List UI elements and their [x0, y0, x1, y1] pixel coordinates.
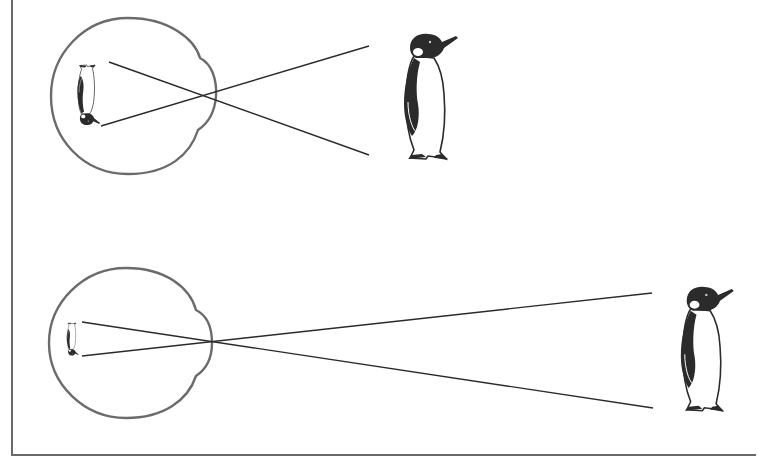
light-ray	[101, 46, 369, 126]
light-ray	[109, 62, 369, 155]
penguin-object-near	[404, 34, 458, 159]
retinal-image-penguin-inverted	[67, 323, 79, 356]
retinal-image-penguin-inverted	[77, 65, 100, 125]
eye-diagram	[0, 0, 758, 464]
panel-near	[51, 18, 458, 174]
light-ray	[82, 293, 652, 356]
light-ray	[82, 322, 653, 408]
eye-outline-near	[51, 18, 216, 174]
penguin-object-far	[681, 287, 734, 411]
panel-far	[49, 268, 734, 418]
